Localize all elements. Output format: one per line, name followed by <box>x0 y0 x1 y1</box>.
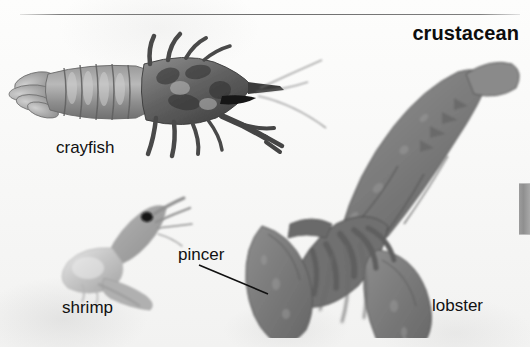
pincer-leader-line <box>190 258 280 303</box>
label-crayfish: crayfish <box>56 138 115 158</box>
crustacean-figure: crustacean <box>0 0 530 347</box>
label-shrimp: shrimp <box>62 298 113 318</box>
label-lobster: lobster <box>432 296 483 316</box>
header-rule <box>20 14 520 15</box>
